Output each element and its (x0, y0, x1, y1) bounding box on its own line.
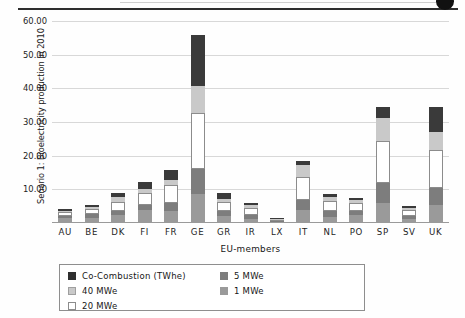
legend-item: 40 MWe (68, 284, 186, 298)
bar-segment (164, 211, 178, 223)
x-axis-tick-uk: UK (419, 227, 453, 237)
bar-segment (270, 222, 284, 223)
x-axis-title: EU-members (52, 244, 449, 254)
bar-segment (376, 203, 390, 223)
bar-gr (217, 193, 231, 223)
bar-nl (323, 194, 337, 223)
bar-segment (376, 118, 390, 140)
bar-segment (164, 185, 178, 204)
legend-swatch-icon (220, 287, 228, 295)
bar-fi (138, 182, 152, 223)
gridline-50 (52, 55, 449, 56)
bar-segment (323, 201, 337, 211)
legend-item: 5 MWe (220, 269, 264, 283)
legend-swatch-icon (68, 287, 76, 295)
page-header-faint-line (120, 2, 440, 3)
bar-ir (244, 203, 258, 224)
bar-segment (138, 210, 152, 223)
y-axis-tick-label: 20.00 (23, 151, 47, 161)
bar-segment (323, 217, 337, 223)
legend-label: 1 MWe (234, 286, 264, 296)
legend-label: 5 MWe (234, 271, 264, 281)
bar-segment (296, 200, 310, 210)
y-axis-tick-label: 60.00 (23, 16, 47, 26)
bar-segment (85, 218, 99, 223)
bar-segment (296, 165, 310, 176)
legend-label: 40 MWe (82, 286, 118, 296)
bar-sv (402, 206, 416, 223)
bar-lx (270, 218, 284, 223)
bar-it (296, 161, 310, 223)
bar-fr (164, 170, 178, 223)
legend-swatch-icon (220, 272, 228, 280)
bar-segment (111, 202, 125, 211)
bar-segment (191, 169, 205, 194)
bar-segment (429, 188, 443, 206)
y-axis-tick-label: 30.00 (23, 117, 47, 127)
bar-segment (217, 202, 231, 211)
bar-segment (429, 150, 443, 187)
bar-segment (296, 210, 310, 223)
bar-segment (191, 194, 205, 223)
bar-segment (58, 218, 72, 223)
bar-segment (429, 205, 443, 223)
bar-dk (111, 193, 125, 223)
legend-swatch-icon (68, 272, 76, 280)
bar-sp (376, 107, 390, 223)
legend-column-left: Co-Combustion (TWhe)40 MWe20 MWe (68, 269, 186, 314)
bar-segment (164, 170, 178, 180)
bar-segment (191, 86, 205, 113)
chart-legend: Co-Combustion (TWhe)40 MWe20 MWe 5 MWe1 … (59, 264, 365, 311)
bar-segment (191, 113, 205, 170)
bar-au (58, 209, 72, 223)
gridline-40 (52, 88, 449, 89)
page-header-rule (18, 8, 458, 10)
bar-segment (376, 141, 390, 183)
bar-segment (191, 35, 205, 86)
bar-segment (402, 219, 416, 223)
bar-segment (244, 208, 258, 216)
y-axis-tick-label: 40.00 (23, 83, 47, 93)
bar-segment (244, 219, 258, 223)
bar-segment (111, 215, 125, 223)
bar-segment (376, 183, 390, 203)
bar-segment (164, 203, 178, 211)
legend-column-right: 5 MWe1 MWe (220, 269, 264, 299)
gridline-60 (52, 21, 449, 22)
legend-item: Co-Combustion (TWhe) (68, 269, 186, 283)
bar-segment (376, 107, 390, 118)
scanned-page: Senario 1: Bioelectricity production in … (0, 0, 465, 318)
legend-item: 1 MWe (220, 284, 264, 298)
legend-label: 20 MWe (82, 301, 118, 311)
chart-figure: Senario 1: Bioelectricity production in … (0, 11, 465, 318)
bar-segment (349, 215, 363, 223)
y-axis-tick-label: 50.00 (23, 50, 47, 60)
bar-segment (349, 203, 363, 211)
legend-item: 20 MWe (68, 299, 186, 313)
bar-segment (296, 177, 310, 200)
bar-po (349, 198, 363, 223)
bar-segment (429, 132, 443, 150)
plot-area: 10.0020.0030.0040.0050.0060.00AUBEDKFIFR… (52, 21, 449, 223)
bar-uk (429, 107, 443, 223)
legend-label: Co-Combustion (TWhe) (82, 271, 186, 281)
bar-segment (217, 216, 231, 223)
y-axis-tick-label: 10.00 (23, 184, 47, 194)
bar-segment (429, 107, 443, 132)
bar-be (85, 205, 99, 223)
legend-swatch-icon (68, 302, 76, 310)
bar-segment (138, 193, 152, 205)
bar-segment (138, 182, 152, 189)
bar-ge (191, 35, 205, 223)
